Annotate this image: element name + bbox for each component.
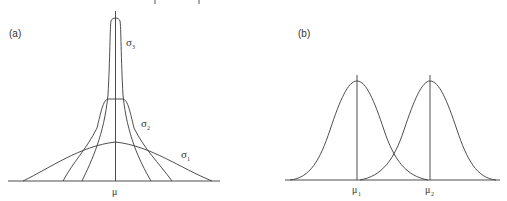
- panel-a: (a) σ 3 σ 2 σ 1 μ: [8, 11, 220, 197]
- svg-text:μ: μ: [425, 184, 430, 195]
- svg-text:2: 2: [147, 125, 150, 131]
- label-sigma-3: σ 3: [126, 36, 135, 50]
- curve-1: [290, 81, 428, 180]
- figure: (a) σ 3 σ 2 σ 1 μ (b) μ 1: [0, 0, 507, 201]
- svg-text:1: 1: [358, 191, 361, 197]
- label-mu-1: μ 1: [352, 184, 361, 197]
- curve-sigma-3: [82, 18, 151, 181]
- panel-b-label: (b): [298, 28, 310, 39]
- panel-b: (b) μ 1 μ 2: [285, 28, 500, 197]
- label-mu-2: μ 2: [425, 184, 434, 197]
- curve-sigma-2: [63, 99, 172, 181]
- svg-text:3: 3: [132, 44, 135, 50]
- svg-text:1: 1: [187, 156, 190, 162]
- svg-text:μ: μ: [352, 184, 357, 195]
- label-sigma-1: σ 1: [181, 148, 190, 162]
- curve-2: [360, 81, 496, 180]
- label-sigma-2: σ 2: [141, 117, 150, 131]
- svg-text:2: 2: [431, 191, 434, 197]
- panel-a-label: (a): [9, 28, 21, 39]
- label-mu: μ: [112, 186, 117, 197]
- cropped-caption-fragment: [155, 0, 199, 4]
